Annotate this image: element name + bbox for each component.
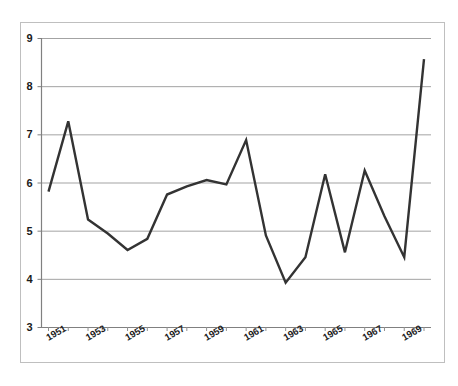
y-tick-label: 5 bbox=[26, 225, 32, 237]
chart-figure: 3456789 19511953195519571959196119631965… bbox=[0, 0, 458, 386]
plot-area-background bbox=[41, 38, 431, 327]
y-tick-label: 4 bbox=[26, 273, 33, 285]
y-tick-label: 9 bbox=[26, 32, 32, 44]
line-chart: 3456789 19511953195519571959196119631965… bbox=[0, 0, 458, 386]
y-tick-label: 7 bbox=[26, 128, 32, 140]
y-tick-label: 6 bbox=[26, 177, 32, 189]
y-tick-labels: 3456789 bbox=[26, 32, 33, 333]
y-tick-label: 8 bbox=[26, 80, 32, 92]
y-tick-label: 3 bbox=[26, 321, 32, 333]
